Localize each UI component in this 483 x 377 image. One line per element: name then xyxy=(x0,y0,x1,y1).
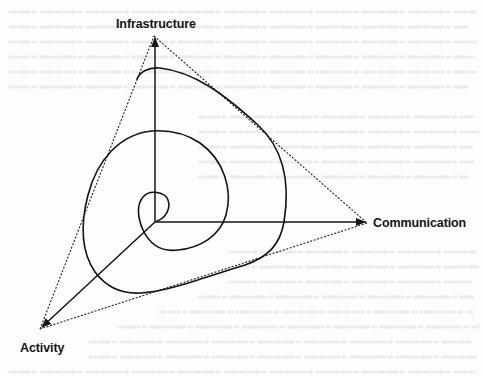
activity-label: Activity xyxy=(20,342,64,355)
envelope-triangle xyxy=(40,36,367,329)
infrastructure-label: Infrastructure xyxy=(116,18,196,31)
communication-label: Communication xyxy=(373,217,466,230)
spiral-diagram xyxy=(0,0,483,377)
axes xyxy=(42,38,365,327)
diagram-page: Infrastructure Communication Activity xyxy=(0,0,483,377)
activity-axis xyxy=(42,222,155,327)
